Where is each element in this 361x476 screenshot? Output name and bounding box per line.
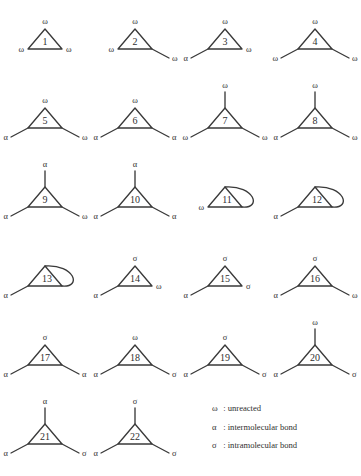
structure-19: σασ19 [180,318,270,397]
legend-symbol: σ [212,441,221,450]
apex-label: ω [222,81,228,90]
right-label: ω [352,53,358,63]
apex-label: σ [43,332,48,342]
structure-number: 3 [223,36,228,47]
left-stem [11,286,28,295]
left-label: α [4,132,9,142]
structure-2: ωωω2 [90,2,180,81]
legend-row: α : intermolecular bond [212,423,360,432]
right-stem [152,128,169,137]
right-stem [332,49,349,58]
left-label: α [184,53,189,63]
structure-number: 11 [222,194,232,205]
structure-number: 21 [40,431,50,442]
right-stem [332,128,349,137]
left-label: α [94,369,99,379]
left-label: α [274,369,279,379]
apex-label: ω [312,318,318,327]
structure-22: σασ22 [90,397,180,476]
structure-4: ωωω4 [270,2,360,81]
right-label: ω [246,44,252,54]
structure-9: ααω9 [0,160,90,239]
legend-separator: : [223,422,225,432]
right-label: σ [82,448,87,458]
right-stem [62,365,79,374]
legend-separator: : [223,403,225,413]
apex-label: α [43,160,48,169]
left-label: ω [198,202,204,212]
legend-separator: : [223,440,225,450]
left-stem [11,128,28,137]
left-label: α [4,211,9,221]
left-label: α [94,211,99,221]
left-label: α [274,290,279,300]
left-label: α [94,448,99,458]
right-stem [152,365,169,374]
right-stem [152,49,169,58]
apex-label: σ [223,253,228,263]
left-stem [101,365,118,374]
right-stem [62,128,79,137]
left-label: α [4,290,9,300]
apex-label: σ [223,332,228,342]
apex-label: σ [313,253,318,263]
structure-1: ωωω1 [0,2,90,81]
structure-number: 15 [220,273,230,284]
apex-label: ω [132,95,138,105]
left-label: α [4,369,9,379]
apex-label: ω [42,95,48,105]
legend-symbol: α [212,423,221,432]
structure-16: σαω16 [270,239,360,318]
legend-symbol: ω [212,404,221,413]
right-label: α [172,132,177,142]
structure-number: 4 [313,36,318,47]
structure-7: ωωω7 [180,81,270,160]
left-label: ω [108,44,114,54]
apex-label: ω [132,332,138,342]
structure-20: ωασ20 [270,318,360,397]
left-label: α [94,132,99,142]
right-stem [62,444,79,453]
structure-number: 2 [133,36,138,47]
right-stem [62,207,79,216]
right-label: ω [66,44,72,54]
left-stem [101,128,118,137]
right-stem [242,365,259,374]
structure-8: ωαω8 [270,81,360,160]
apex-label: ω [222,16,228,26]
structure-11: ω11 [180,160,270,239]
left-stem [281,49,298,58]
right-label: σ [172,369,177,379]
legend-row: σ : intramolecular bond [212,441,360,450]
structure-number: 13 [42,273,52,284]
structure-6: ωαα6 [90,81,180,160]
right-label: σ [352,369,357,379]
structure-5: ωαω5 [0,81,90,160]
apex-label: ω [132,16,138,26]
structure-number: 14 [130,273,140,284]
structure-number: 9 [43,194,48,205]
right-label: ω [82,211,88,221]
right-stem [332,286,349,295]
left-stem [191,286,208,295]
structure-number: 20 [310,352,320,363]
left-stem [101,207,118,216]
structure-number: 5 [43,115,48,126]
right-label: ω [352,132,358,142]
apex-label: ω [312,16,318,26]
left-label: α [184,369,189,379]
left-label: ω [182,132,188,142]
right-label: ω [262,132,268,142]
left-stem [281,207,298,216]
right-label: α [82,369,87,379]
apex-label: α [133,160,138,169]
left-stem [101,444,118,453]
structure-12: α12 [270,160,360,239]
structure-number: 19 [220,352,230,363]
structure-3: ωαω3 [180,2,270,81]
left-stem [281,128,298,137]
structure-number: 6 [133,115,138,126]
left-label: ω [272,53,278,63]
structure-number: 16 [310,273,320,284]
structure-13: α13 [0,239,90,318]
